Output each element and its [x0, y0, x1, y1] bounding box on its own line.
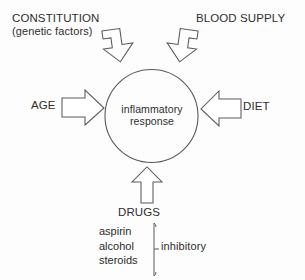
diagram-canvas: CONSTITUTION(genetic factors) BLOOD SUPP… — [0, 0, 305, 280]
arrow-down-right-icon — [101, 27, 135, 64]
label-age: AGE — [31, 99, 56, 112]
list-item: aspirin — [99, 224, 138, 239]
arrow-right-icon — [62, 90, 104, 125]
central-node-line2: response — [106, 116, 198, 128]
label-inhibitory: inhibitory — [161, 240, 206, 252]
central-node-label: inflammatoryresponse — [106, 104, 198, 128]
drug-example-list: aspirin alcohol steroids — [99, 224, 138, 268]
label-blood-supply: BLOOD SUPPLY — [196, 12, 285, 25]
label-drugs: DRUGS — [118, 206, 160, 219]
label-diet: DIET — [243, 100, 270, 113]
brace-icon — [154, 223, 159, 276]
central-node-line1: inflammatory — [121, 103, 182, 115]
diagram-graphics — [0, 0, 305, 280]
list-item: alcohol — [99, 239, 138, 254]
arrow-left-icon — [201, 91, 241, 126]
list-item: steroids — [99, 253, 138, 268]
arrow-down-left-icon — [165, 27, 199, 64]
label-constitution-main: CONSTITUTION — [12, 12, 99, 24]
arrow-up-icon — [132, 167, 162, 203]
label-constitution-sub: (genetic factors) — [12, 25, 99, 37]
label-constitution: CONSTITUTION(genetic factors) — [12, 12, 99, 37]
